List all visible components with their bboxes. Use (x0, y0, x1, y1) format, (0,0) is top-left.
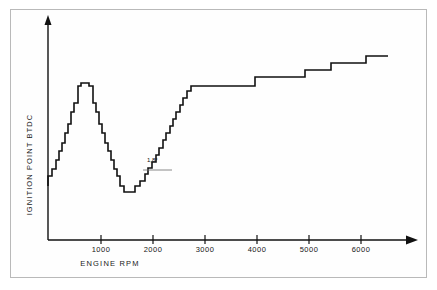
x-axis-tick-label-1000: 1000 (92, 245, 111, 254)
chart-plot (0, 0, 437, 290)
x-axis-title: ENGINE RPM (80, 259, 140, 268)
x-axis-tick-label-3000: 3000 (196, 245, 215, 254)
y-axis-arrow-icon (45, 15, 52, 25)
y-axis-title: IGNITION POINT BTDC (25, 105, 34, 225)
step-value-annotation: 1,8° (147, 157, 158, 163)
x-axis-tick-label-6000: 6000 (352, 245, 371, 254)
ignition-advance-curve (48, 56, 388, 192)
x-axis-tick-label-5000: 5000 (300, 245, 319, 254)
x-axis-tick-label-4000: 4000 (248, 245, 267, 254)
figure-container: 100020003000400050006000 ENGINE RPM IGNI… (0, 0, 437, 290)
x-axis-tick-label-2000: 2000 (144, 245, 163, 254)
x-axis-arrow-icon (406, 236, 418, 245)
